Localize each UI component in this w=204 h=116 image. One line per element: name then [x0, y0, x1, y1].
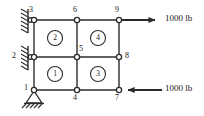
- node-label-1: 1: [24, 84, 28, 92]
- node-label-6: 6: [73, 6, 77, 14]
- wall-hatching-upper: [21, 9, 28, 33]
- node-label-8: 8: [125, 52, 129, 60]
- node-circle-4: [74, 87, 79, 92]
- load-label-bottom: 1000 lb: [165, 84, 192, 93]
- node-circle-5: [74, 54, 79, 59]
- node-circle-1: [31, 87, 36, 92]
- figure-canvas: 1 2 3 4 5 6 7 8 9 1 2 3 4 1000 lb 1000 l…: [0, 0, 204, 116]
- node-label-2: 2: [12, 52, 16, 60]
- node-circle-7: [116, 87, 121, 92]
- node-label-4: 4: [73, 94, 77, 102]
- node-label-5: 5: [79, 45, 83, 53]
- load-label-top: 1000 lb: [165, 14, 192, 23]
- element-label-1: 1: [51, 70, 59, 78]
- node-label-7: 7: [115, 94, 119, 102]
- node-circle-2: [31, 54, 36, 59]
- element-label-4: 4: [94, 34, 102, 42]
- ground-hatching: [22, 104, 42, 108]
- element-label-3: 3: [94, 70, 102, 78]
- node-circle-6: [74, 17, 79, 22]
- node-circle-3: [31, 17, 36, 22]
- support-node-1: [22, 91, 44, 108]
- node-label-9: 9: [115, 6, 119, 14]
- node-circle-9: [116, 17, 121, 22]
- node-label-3: 3: [29, 6, 33, 14]
- wall-hatching-middle: [21, 46, 28, 70]
- node-circle-8: [116, 54, 121, 59]
- element-label-2: 2: [51, 34, 59, 42]
